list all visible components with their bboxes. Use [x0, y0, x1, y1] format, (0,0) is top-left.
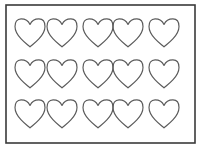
sheet-canvas	[0, 0, 201, 149]
page-border	[6, 5, 195, 143]
heart-template-sheet	[0, 0, 201, 149]
